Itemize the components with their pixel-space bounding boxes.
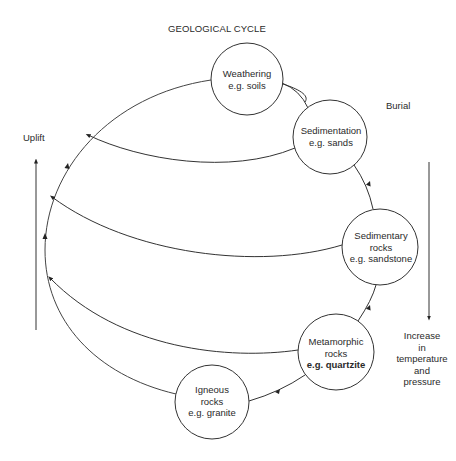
sedimentation-label: Sedimentation e.g. sands — [301, 125, 362, 148]
sedimentary-rocks-label: Sedimentary rocks e.g. sandstone — [350, 230, 412, 265]
weathering-example: e.g. soils — [223, 79, 271, 91]
increase-line-1: Increase — [392, 330, 452, 342]
igneous-name: Igneous — [188, 384, 236, 396]
sedimentation-name: Sedimentation — [301, 125, 362, 137]
uplift-label: Uplift — [23, 132, 45, 144]
arrowhead-burial-1 — [366, 180, 372, 186]
diagram-title: GEOLOGICAL CYCLE — [168, 23, 266, 34]
increase-line-2: in — [392, 342, 452, 354]
metamorphic-rocks-label: Metamorphic rocks e.g. quartzite — [307, 336, 366, 371]
increase-temperature-pressure-label: Increase in temperature and pressure — [392, 330, 452, 388]
increase-line-4: and — [392, 365, 452, 377]
return-sedimentation-to-arc — [88, 135, 295, 162]
igneous-rocks-label: Igneous rocks e.g. granite — [188, 384, 236, 419]
outer-arc-arrowhead-1 — [43, 233, 48, 239]
metamorphic-example: e.g. quartzite — [307, 359, 366, 371]
weathering-label: Weathering e.g. soils — [223, 68, 271, 91]
return-sedimentary-to-arc — [52, 197, 342, 257]
sedimentary-example: e.g. sandstone — [350, 253, 412, 265]
increase-line-5: pressure — [392, 376, 452, 388]
sedimentary-rocks-word: rocks — [350, 241, 412, 253]
outer-arc-arrowhead-2 — [65, 163, 70, 169]
arrow-sedimentation-to-sedimentary — [354, 165, 373, 209]
igneous-rocks-word: rocks — [188, 395, 236, 407]
return-metamorphic-to-arc — [50, 278, 298, 353]
igneous-example: e.g. granite — [188, 407, 236, 419]
arrow-sedimentary-to-metamorphic — [358, 285, 376, 321]
increase-line-3: temperature — [392, 353, 452, 365]
sedimentary-name: Sedimentary — [350, 230, 412, 242]
sedimentation-example: e.g. sands — [301, 136, 362, 148]
metamorphic-rocks-word: rocks — [307, 347, 366, 359]
weathering-name: Weathering — [223, 68, 271, 80]
arrow-metamorphic-to-igneous — [249, 375, 305, 401]
burial-label: Burial — [386, 100, 410, 112]
metamorphic-name: Metamorphic — [307, 336, 366, 348]
